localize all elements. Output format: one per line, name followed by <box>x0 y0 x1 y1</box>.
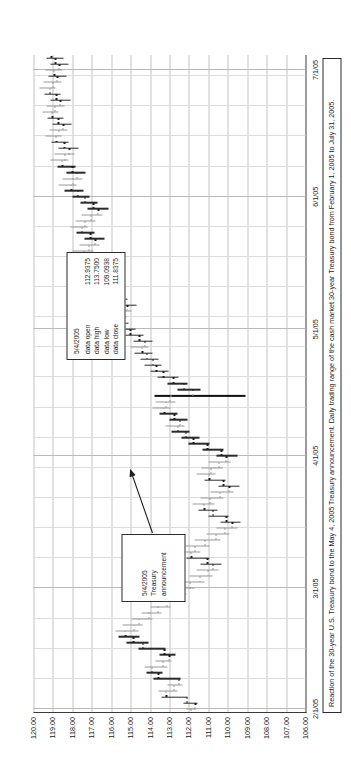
ohlc-high-low-line <box>133 341 152 342</box>
ohlc-close-tick <box>129 333 131 335</box>
ohlc-close-tick <box>92 207 94 209</box>
gridline-horizontal <box>52 55 53 712</box>
ohlc-close-tick <box>84 201 86 203</box>
ohlc-close-tick <box>225 520 227 522</box>
ohlc-open-tick <box>124 631 125 633</box>
gridline-vertical-minor <box>33 75 305 76</box>
ohlc-open-tick <box>222 480 224 482</box>
ohlc-open-tick <box>71 166 73 168</box>
ohlc-bar <box>72 195 89 199</box>
ohlc-close-tick <box>89 237 91 239</box>
ohlc-open-tick <box>199 576 200 578</box>
y-axis-tick-label: 112.00 <box>184 717 193 738</box>
ohlc-open-tick <box>189 582 190 584</box>
ohlc-close-tick <box>132 641 134 643</box>
ohlc-bar <box>208 514 228 518</box>
ohlc-close-tick <box>228 490 229 492</box>
ohlc-high-low-line <box>220 521 240 522</box>
ohlc-open-tick <box>72 179 73 181</box>
ohlc-close-tick <box>219 496 220 498</box>
ohlc-open-tick <box>52 82 53 84</box>
y-axis-tick-label: 114.00 <box>145 717 154 738</box>
ohlc-close-tick <box>189 587 190 589</box>
data-box-open-value: 112.9375 <box>82 258 92 285</box>
gridline-horizontal <box>91 55 92 712</box>
ohlc-close-tick <box>209 502 210 504</box>
ohlc-close-tick <box>173 418 175 420</box>
ohlc-open-tick <box>151 667 152 669</box>
ohlc-open-tick <box>157 606 158 608</box>
ohlc-open-tick <box>129 329 131 331</box>
ohlc-open-tick <box>94 239 96 241</box>
ohlc-open-tick <box>138 335 140 337</box>
ohlc-close-tick <box>146 358 148 360</box>
ohlc-open-tick <box>59 100 61 102</box>
ohlc-high-low-line <box>157 377 177 378</box>
rotated-figure: 120.00119.00118.00117.00116.00115.00114.… <box>0 0 351 770</box>
y-axis-tick-label: 119.00 <box>48 717 57 738</box>
ohlc-open-tick <box>178 679 180 681</box>
ohlc-close-tick <box>152 364 154 366</box>
gridline-vertical-minor <box>33 437 305 438</box>
ohlc-bar <box>218 484 239 488</box>
gridline-horizontal <box>247 55 248 712</box>
ohlc-open-tick <box>126 305 128 307</box>
ohlc-open-tick <box>228 486 230 488</box>
data-box-row-open: data open 112.9375 <box>82 258 92 354</box>
gridline-horizontal <box>188 55 189 712</box>
ohlc-bar <box>50 62 68 66</box>
y-axis-tick-label: 108.00 <box>262 717 271 739</box>
ohlc-close-tick <box>77 195 79 197</box>
ohlc-bar <box>43 80 61 84</box>
ohlc-bar <box>200 496 223 500</box>
data-box-row-close: data close 111.8375 <box>110 258 120 354</box>
x-axis-tick-label: 6/1/05 <box>310 187 319 207</box>
ohlc-bar <box>79 243 99 247</box>
ohlc-close-tick <box>163 412 165 414</box>
ohlc-bar <box>146 671 163 675</box>
x-axis-tick-label: 5/1/05 <box>310 319 319 339</box>
ohlc-open-tick <box>157 673 159 675</box>
ohlc-close-tick <box>166 605 167 607</box>
ohlc-close-tick <box>194 707 195 709</box>
ohlc-close-tick <box>97 213 98 215</box>
ohlc-plot-area: 120.00119.00118.00117.00116.00115.00114.… <box>33 55 306 713</box>
ohlc-high-low-line <box>201 467 222 468</box>
x-axis-tick-label: 4/1/05 <box>310 446 319 466</box>
ohlc-high-low-line <box>216 528 237 529</box>
ohlc-bar <box>49 128 67 132</box>
ohlc-close-tick <box>212 569 213 571</box>
ohlc-high-low-line <box>146 672 163 673</box>
gridline-horizontal <box>266 55 267 712</box>
ohlc-bar <box>169 418 187 422</box>
ohlc-open-tick <box>192 438 194 440</box>
ohlc-open-tick <box>162 371 164 373</box>
ohlc-close-tick <box>76 177 77 179</box>
ohlc-open-tick <box>162 661 163 663</box>
ohlc-open-tick <box>219 492 220 494</box>
ohlc-open-tick <box>54 106 55 108</box>
y-axis-tick-label: 107.00 <box>281 717 290 739</box>
ohlc-open-tick <box>152 359 154 361</box>
ohlc-close-tick <box>49 92 51 94</box>
ohlc-bar <box>167 683 182 687</box>
ohlc-bar <box>165 424 183 428</box>
y-axis-tick-label: 117.00 <box>87 717 96 738</box>
ohlc-close-tick <box>144 345 145 347</box>
ohlc-open-tick <box>192 389 194 391</box>
ohlc-bar <box>130 345 147 349</box>
ohlc-bar <box>208 460 230 464</box>
ohlc-close-tick <box>126 309 127 311</box>
ohlc-bar <box>58 147 77 151</box>
ohlc-bar <box>45 135 62 139</box>
ohlc-bar <box>183 701 198 705</box>
ohlc-open-tick <box>179 420 181 422</box>
ohlc-close-tick <box>138 339 140 341</box>
ohlc-bar <box>150 605 170 609</box>
ohlc-open-tick <box>208 474 209 476</box>
ohlc-bar <box>47 116 64 120</box>
ohlc-bar <box>76 231 94 235</box>
ohlc-open-tick <box>76 172 78 174</box>
ohlc-open-tick <box>70 185 71 187</box>
gridline-horizontal <box>227 55 228 712</box>
